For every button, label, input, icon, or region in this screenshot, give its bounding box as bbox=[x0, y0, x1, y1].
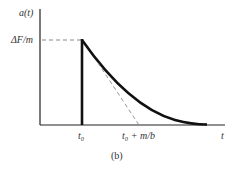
y-tick-label: ΔF/m bbox=[10, 34, 33, 45]
acceleration-plot: a(t) ΔF/m t₀ t₀ + m/b t (b) bbox=[0, 0, 235, 170]
figure-caption: (b) bbox=[111, 150, 123, 162]
y-axis-label: a(t) bbox=[19, 7, 34, 19]
x-tick-label-t0-plus-m-over-b: t₀ + m/b bbox=[122, 130, 155, 141]
x-tick-label-t0: t₀ bbox=[78, 130, 85, 141]
x-axis-label: t bbox=[221, 130, 224, 141]
tangent-dashed-line bbox=[98, 63, 139, 125]
decay-curve bbox=[82, 40, 207, 125]
